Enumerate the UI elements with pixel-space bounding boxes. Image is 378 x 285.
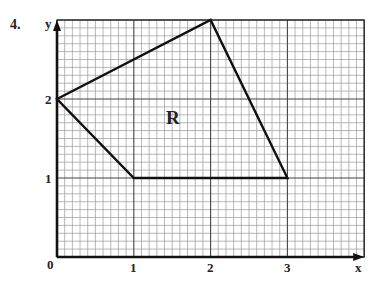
y-axis-label: y [45, 16, 52, 31]
x-tick-2: 2 [207, 260, 214, 275]
region-diagram: 4. y x 0 1 2 3 1 2 R [0, 0, 378, 285]
region-label: R [166, 107, 180, 128]
y-tick-1: 1 [45, 171, 52, 186]
problem-number: 4. [10, 17, 21, 32]
origin-label: 0 [47, 257, 54, 272]
x-tick-1: 1 [130, 260, 137, 275]
x-axis-label: x [355, 260, 362, 275]
y-axis-arrow-icon [53, 20, 61, 31]
y-tick-2: 2 [45, 92, 52, 107]
x-tick-3: 3 [284, 260, 291, 275]
